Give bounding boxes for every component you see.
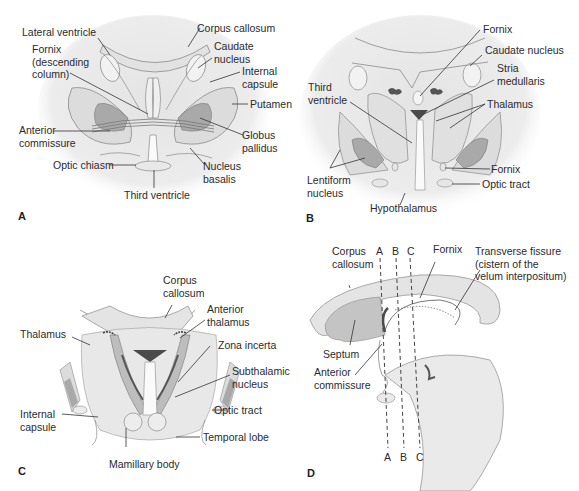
label-internal-capsule-c: Internal capsule bbox=[20, 408, 56, 433]
label-anterior-thalamus: Anterior thalamus bbox=[207, 303, 250, 328]
label-fornix-descending-column: Fornix (descending column) bbox=[32, 43, 89, 81]
label-third-ventricle-a: Third ventricle bbox=[124, 189, 190, 202]
label-lentiform-nucleus: Lentiform nucleus bbox=[307, 174, 351, 199]
label-corpus-callosum-c: Corpus callosum bbox=[163, 274, 204, 299]
label-caudate-nucleus-a: Caudate nucleus bbox=[214, 40, 254, 65]
section-label-top-a: A bbox=[376, 245, 383, 257]
section-label-top-b: B bbox=[392, 245, 399, 257]
label-thalamus-b: Thalamus bbox=[487, 98, 533, 111]
label-lateral-ventricle: Lateral ventricle bbox=[22, 26, 96, 39]
label-corpus-callosum-a: Corpus callosum bbox=[197, 22, 275, 35]
panel-letter-a: A bbox=[18, 210, 26, 222]
label-third-ventricle-b: Third ventricle bbox=[308, 81, 347, 106]
label-internal-capsule-a: Internal capsule bbox=[242, 65, 278, 90]
label-temporal-lobe: Temporal lobe bbox=[203, 431, 269, 444]
panel-letter-b: B bbox=[306, 212, 314, 224]
label-anterior-commissure-a: Anterior commissure bbox=[19, 124, 76, 149]
label-mamillary-body: Mamillary body bbox=[109, 458, 180, 471]
label-anterior-commissure-d: Anterior commissure bbox=[314, 366, 371, 391]
label-thalamus-c: Thalamus bbox=[20, 328, 66, 341]
label-putamen: Putamen bbox=[250, 98, 292, 111]
label-nucleus-basalis: Nucleus basalis bbox=[203, 160, 241, 185]
section-label-top-c: C bbox=[407, 245, 415, 257]
label-optic-tract-b: Optic tract bbox=[482, 178, 530, 191]
panel-letter-d: D bbox=[307, 467, 315, 479]
label-zona-incerta: Zona incerta bbox=[218, 339, 276, 352]
label-hypothalamus: Hypothalamus bbox=[370, 202, 437, 215]
label-caudate-nucleus-b: Caudate nucleus bbox=[485, 44, 564, 57]
label-subthalamic-nucleus: Subthalamic nucleus bbox=[232, 365, 290, 390]
label-transverse-fissure: Transverse fissure (cistern of the velum… bbox=[475, 245, 567, 283]
label-corpus-callosum-d: Corpus callosum bbox=[332, 245, 373, 270]
label-optic-chiasm: Optic chiasm bbox=[53, 159, 114, 172]
label-optic-tract-c: Optic tract bbox=[214, 404, 262, 417]
panel-letter-c: C bbox=[18, 465, 26, 477]
label-globus-pallidus: Globus pallidus bbox=[242, 129, 278, 154]
label-fornix-d: Fornix bbox=[433, 243, 462, 256]
label-fornix-b-top: Fornix bbox=[483, 23, 512, 36]
section-label-bottom-a: A bbox=[384, 451, 391, 463]
label-stria-medullaris: Stria medullaris bbox=[497, 62, 545, 87]
label-fornix-b-bottom: Fornix bbox=[491, 163, 520, 176]
section-label-bottom-c: C bbox=[416, 451, 424, 463]
section-label-bottom-b: B bbox=[400, 451, 407, 463]
label-septum: Septum bbox=[323, 348, 359, 361]
